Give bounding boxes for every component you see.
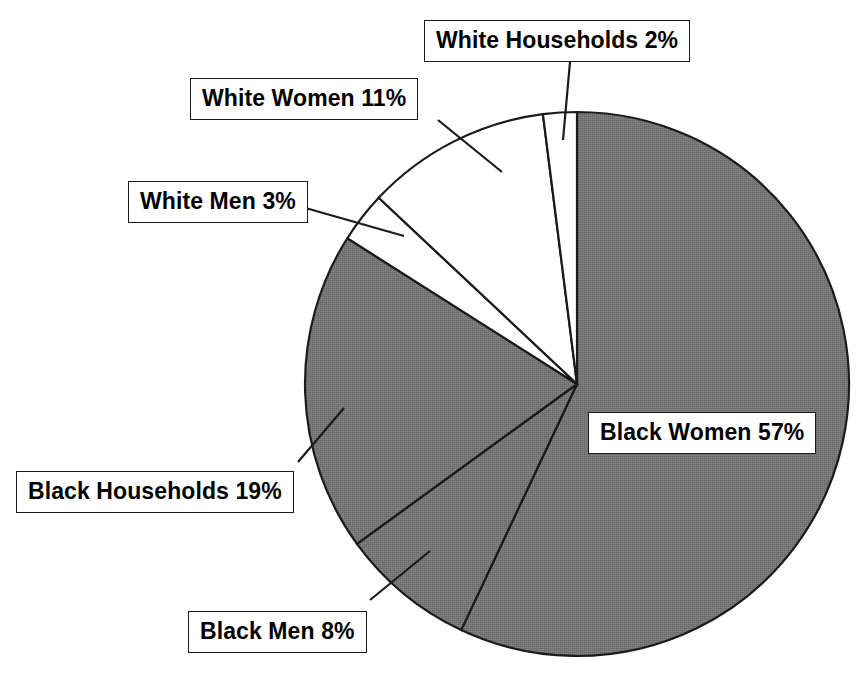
callout-black-men[interactable]: Black Men 8% xyxy=(188,611,367,653)
callout-black-women-label: Black Women 57% xyxy=(600,421,804,444)
pie-chart-graphic xyxy=(0,0,868,678)
pie-chart: White Households 2% White Women 11% Whit… xyxy=(0,0,868,678)
callout-white-women-label: White Women 11% xyxy=(202,87,406,110)
callout-white-women[interactable]: White Women 11% xyxy=(190,78,418,120)
pie-slices xyxy=(305,112,849,656)
callout-white-households[interactable]: White Households 2% xyxy=(424,20,690,62)
callout-white-men[interactable]: White Men 3% xyxy=(128,181,308,223)
callout-black-men-label: Black Men 8% xyxy=(200,620,355,643)
callout-white-men-label: White Men 3% xyxy=(140,190,296,213)
callout-black-households-label: Black Households 19% xyxy=(28,480,282,503)
callout-white-households-label: White Households 2% xyxy=(436,29,678,52)
callout-black-households[interactable]: Black Households 19% xyxy=(16,471,294,513)
callout-black-women[interactable]: Black Women 57% xyxy=(588,412,816,454)
